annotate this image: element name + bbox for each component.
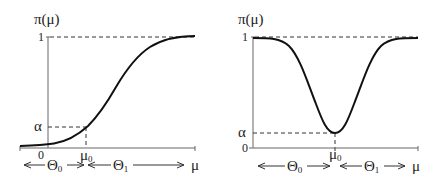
right-x-tick-label-mu0: μ0: [329, 146, 342, 163]
left-y-tick-label-alpha: α: [34, 118, 42, 134]
right-panel: π(μ) 1 α 0 μ0 Θ0 Θ1 μ: [238, 11, 420, 175]
right-y-tick-label-0: 0: [242, 141, 248, 155]
power-function-diagram: π(μ) 1 α 0 μ0 Θ0 Θ1 μ π(μ) 1 α: [0, 0, 438, 183]
right-y-axis-label: π(μ): [238, 11, 264, 28]
left-x-tick-label-0: 0: [38, 148, 44, 162]
left-panel: π(μ) 1 α 0 μ0 Θ0 Θ1 μ: [20, 11, 199, 174]
left-x-tick-label-mu0: μ0: [80, 147, 93, 164]
right-power-curve: [253, 38, 418, 133]
left-y-tick-label-1: 1: [38, 30, 44, 44]
left-power-curve: [20, 36, 195, 146]
left-x-axis-label: μ: [191, 157, 199, 173]
right-y-tick-label-alpha: α: [238, 124, 246, 140]
right-x-axis-label: μ: [412, 158, 420, 174]
right-y-tick-label-1: 1: [242, 30, 248, 44]
left-y-axis-label: π(μ): [34, 11, 60, 28]
